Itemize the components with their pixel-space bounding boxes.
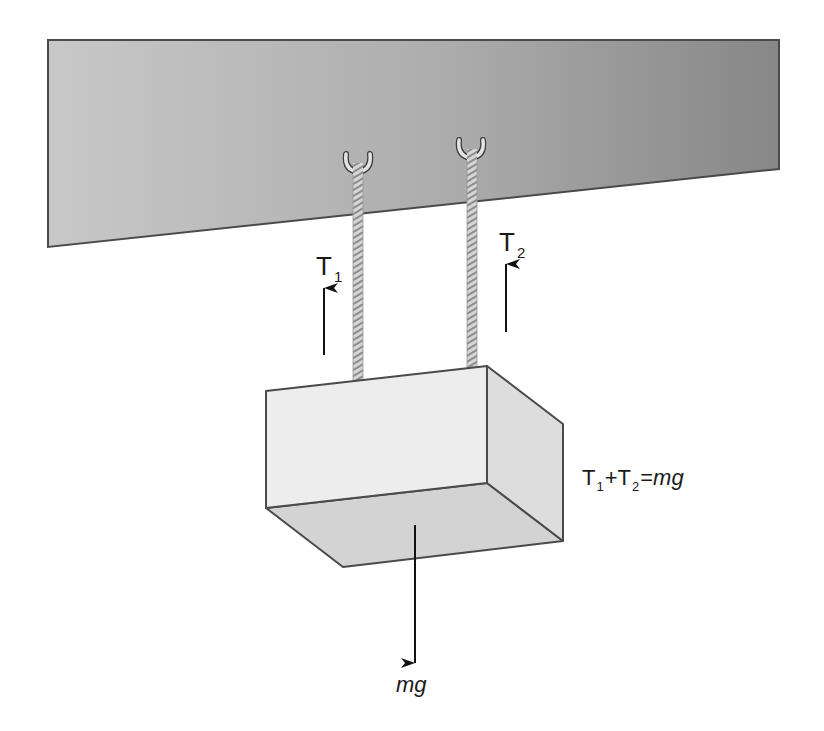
equation-t2: T xyxy=(618,465,631,490)
equation-t1-subscript: 1 xyxy=(596,479,603,494)
equation-rhs: mg xyxy=(653,465,684,490)
equation-t1: T xyxy=(582,465,595,490)
rope-1 xyxy=(353,164,363,381)
tension-2-subscript: 2 xyxy=(517,244,525,261)
rope-2 xyxy=(467,150,477,367)
equation-t2-subscript: 2 xyxy=(632,479,639,494)
rope-2-top xyxy=(467,149,477,161)
tension-1-label: T1 xyxy=(316,253,342,279)
block-front-face xyxy=(266,366,487,508)
weight-label: mg xyxy=(396,674,427,696)
equilibrium-equation: T1+T2=mg xyxy=(582,467,684,489)
tension-1-subscript: 1 xyxy=(334,268,342,285)
ceiling xyxy=(48,40,779,247)
force-diagram xyxy=(0,0,824,731)
equation-plus: + xyxy=(605,465,618,490)
rope-1-top xyxy=(353,163,363,175)
tension-1-symbol: T xyxy=(316,251,332,281)
tension-2-label: T2 xyxy=(499,229,525,255)
tension-2-symbol: T xyxy=(499,227,515,257)
equation-equals: = xyxy=(640,465,653,490)
